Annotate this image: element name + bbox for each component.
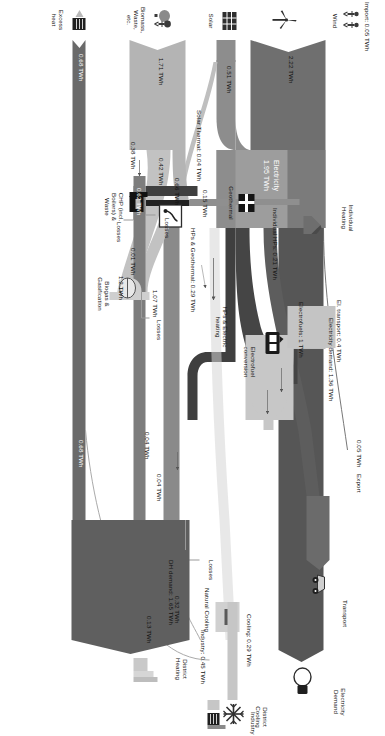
flow-label-export-word: Export — [354, 474, 361, 492]
demand-value-industry: Industry: 0.45 TWh — [198, 630, 205, 684]
node-district-heating — [71, 281, 199, 560]
source-value-biomass: 1.71 TWh — [156, 58, 163, 86]
losses-label-chp-el: Losses — [162, 218, 169, 238]
flow-label-chp-in: 0.42 TWh — [156, 158, 163, 186]
source-value-solar: 0.51 TWh — [224, 66, 231, 94]
flow-label-st-to-dh: 0.04 TWh — [142, 432, 149, 460]
demand-label-district-heating: District Heating — [173, 650, 187, 688]
losses-label-dh: Losses — [206, 560, 213, 580]
flow-label-excess-dh: 0.68 TWh — [76, 440, 83, 468]
losses-label-chp-heat: Losses — [114, 222, 121, 242]
converter-label-hp-geothermal: HPs & Geothermal: 0.29 TWh — [188, 228, 195, 312]
central-node-line1: Electricity — [271, 160, 279, 191]
converter-label-geothermal: Geothermal — [226, 180, 233, 226]
demand-value-individual-hp: Individual HPs: 0.21 TWh — [270, 208, 277, 280]
flow-label-solar-thermal: Solar Thermal: 0.04 TWh — [194, 110, 201, 181]
demand-label-transport: Transport — [340, 600, 347, 627]
demand-label-electricity: Electricity Demand — [331, 682, 345, 722]
source-label-biomass: Biomass, Waste, etc. — [124, 0, 145, 40]
demand-label-industry: Industry — [248, 712, 255, 735]
flow-label-cool-natural: 0.32 TWh — [172, 596, 179, 624]
flow-label-cool-industry: 0.13 TWh — [144, 616, 151, 644]
flow-label-biogas-el: 0.01 TWh — [128, 248, 135, 276]
losses-label-biogas: Losses — [154, 320, 161, 340]
source-label-solar: Solar — [206, 2, 213, 40]
flow-label-hps-electric-heating: HPs & Electric heating — [213, 300, 227, 354]
source-value-wind: 2.22 TWh — [286, 56, 293, 84]
source-value-excess: 0.68 TWh — [76, 54, 83, 82]
flow-label-biogas-out: 1.07 TWh — [150, 290, 157, 318]
source-label-wind: Wind — [330, 4, 337, 38]
central-node-line2: 1.95 TWh — [261, 160, 269, 191]
source-value-import: Import: 0.05 TWh — [362, 2, 369, 51]
demand-value-electricity: Electricity demand: 1.36 TWh — [326, 318, 333, 402]
flow-label-export-value: 0.05 TWh — [354, 440, 361, 468]
demand-arrow-cooling — [227, 690, 237, 700]
flow-label-hp-geo-in: 0.15 TWh — [200, 190, 207, 218]
demand-value-electrofuels: Electrofuels: 1 TWh — [296, 302, 303, 358]
flow-solar-to-electricity — [216, 40, 249, 150]
flow-label-chp-el: 0.66 TWh — [172, 178, 179, 206]
source-label-excess: Excess heat — [49, 2, 63, 38]
flow-label-electrofuels: Electrofuels 1.18 TWh — [254, 248, 261, 311]
flow-label-dh-to-industry: 0.04 TWh — [154, 474, 161, 502]
demand-arrow-electrofuels — [269, 430, 293, 570]
converter-label-electrofuel: Electrofuel conversion — [241, 336, 255, 388]
demand-value-transport: El. transport: 0.4 TWh — [334, 300, 341, 362]
demand-value-cooling: Cooling: 0.29 TWh — [244, 614, 251, 667]
flow-label-biomass-chp: 0.38 TWh — [128, 142, 135, 170]
demand-arrow-transport — [306, 470, 329, 570]
demand-label-individual-heating: Individual Heating — [339, 198, 353, 238]
converter-label-biogas: Biogas & Gasification — [95, 268, 109, 320]
demand-arrow-industry — [207, 700, 219, 710]
flow-label-biogas-in: 1.2 TWh — [116, 276, 123, 300]
flow-label-chp-heat: 0.62 TWh — [134, 188, 141, 216]
converter-label-natural-cooling: Natural Cooling — [202, 588, 209, 632]
